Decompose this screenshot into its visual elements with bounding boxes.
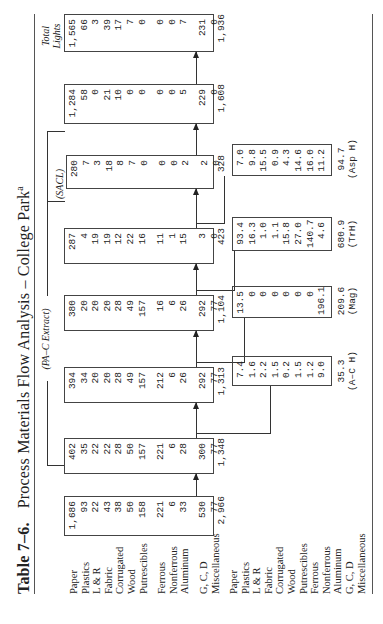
bottom-rule [372, 14, 373, 594]
row-label: Ferrous [156, 533, 168, 594]
row-label: L & R [251, 533, 263, 594]
row-label: G, C, D [344, 533, 356, 594]
flow-line [47, 381, 48, 466]
row-label: Ferrous [309, 533, 321, 594]
row-label: L & R [91, 533, 103, 594]
row-label: Plastics [240, 533, 252, 594]
table-title: Table 7–6.Process Materials Flow Analysi… [14, 186, 33, 594]
row-label: G, C, D [198, 533, 210, 594]
row-label: Fabric [103, 533, 115, 594]
flow-total: 1,104 [216, 295, 227, 335]
flow-box-sacl: 280731887000220 [66, 155, 214, 189]
flow-box-5: 287419191222161111530 [64, 228, 214, 264]
flow-line [270, 386, 271, 434]
flow-line [196, 290, 234, 291]
arrow-right-icon [193, 123, 199, 130]
flow-total: 2,966 [216, 496, 227, 536]
arrow-right-icon [193, 51, 199, 58]
header-line: Lights [51, 14, 62, 58]
row-label: Wood [286, 533, 298, 594]
arrow-right-icon [193, 402, 199, 409]
flow-box-1: 1,686932243385015822163353077 [64, 496, 214, 536]
extract-total: 94.7(Asp H) [336, 136, 358, 182]
extract-total: 209.6(Mag) [336, 278, 358, 324]
row-label: Paper [228, 533, 240, 594]
row-labels-lower: Paper Plastics L & R Fabric Corrugated W… [228, 533, 367, 594]
total-lights-header: Total Lights [40, 14, 62, 58]
flow-total: 1,313 [216, 367, 227, 407]
top-rule [34, 14, 35, 594]
flow-line [47, 132, 48, 202]
row-label: Corrugated [114, 533, 126, 594]
flow-box-3: 394342020284915721262629277 [64, 367, 214, 403]
row-label: Aluminum [332, 533, 344, 594]
row-label: Wood [126, 533, 138, 594]
row-labels-upper: Paper Plastics L & R Fabric Corrugated W… [68, 533, 221, 594]
extract-total: 680.9(TrH) [336, 211, 358, 257]
extract-box-mag: 13.5000000196.1 [232, 286, 332, 318]
flow-box-2: 402352222285015722162830077 [64, 438, 214, 474]
row-label: Nonferrous [168, 533, 180, 594]
footnote-mark: a [14, 186, 25, 191]
row-label: Aluminum [179, 533, 191, 594]
sacl-header: (SACL) [54, 164, 65, 204]
row-label: Miscellaneous [210, 533, 222, 594]
flow-line [47, 202, 48, 296]
arrow-right-icon [193, 473, 199, 480]
flow-line [196, 223, 224, 224]
row-label: Corrugated [274, 533, 286, 594]
flow-total: 1,608 [216, 84, 227, 128]
row-label: Paper [68, 533, 80, 594]
rotated-table-page: Table 7–6.Process Materials Flow Analysi… [0, 0, 383, 624]
arrow-right-icon [193, 188, 199, 195]
row-label: Putrescibles [138, 533, 150, 594]
flow-box-total-lights: 1,5656633917700072310 [64, 14, 214, 52]
table-number: Table 7–6. [15, 522, 32, 594]
arrow-right-icon [193, 330, 199, 337]
flow-box-7: 1,2845802110000052290 [64, 84, 214, 124]
flow-total: 1,348 [216, 438, 227, 478]
extract-box-ach: 7.41.62.21.50.21.51.29.0 [232, 356, 332, 386]
row-label: Miscellaneous [356, 533, 368, 594]
header-line: Total [40, 14, 51, 58]
arrow-right-icon [193, 263, 199, 270]
flow-line [234, 251, 235, 291]
flow-total: 328 [216, 155, 227, 193]
table-caption: Process Materials Flow Analysis – Colleg… [15, 191, 32, 509]
flow-line [47, 201, 65, 202]
row-label: Nonferrous [321, 533, 333, 594]
flow-line [47, 465, 65, 466]
extract-box-trh: 93.416.31.01.115.827.0140.74.6 [232, 217, 332, 251]
flow-line [47, 131, 65, 132]
extract-total: 35.3(A–C H) [336, 348, 358, 394]
flow-line [224, 176, 225, 224]
row-label: Plastics [80, 533, 92, 594]
row-label: Fabric [263, 533, 275, 594]
pac-extract-header: (PA–C Extract) [40, 299, 51, 379]
flow-total: 423 [216, 228, 227, 268]
extract-box-asph: 7.09.815.50.94.314.616.011.2 [232, 144, 332, 176]
flow-line [196, 433, 270, 434]
flow-box-4: 38020202028491571662629277 [64, 295, 214, 331]
flow-total: 1,936 [216, 14, 227, 56]
row-label: Putrescibles [298, 533, 310, 594]
